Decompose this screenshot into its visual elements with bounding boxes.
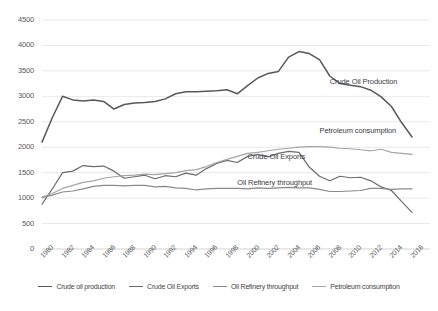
legend-label: Crude oil production — [56, 283, 115, 290]
legend-line-icon — [129, 286, 143, 287]
series-annotation: Crude Oil Exports — [248, 152, 306, 161]
legend-label: Crude Oil Exports — [147, 283, 199, 290]
series-annotation: Petroleum consumption — [320, 126, 397, 135]
y-tick-label: 1500 — [6, 168, 34, 177]
y-tick-label: 4000 — [6, 40, 34, 49]
legend-line-icon — [213, 286, 227, 287]
legend-label: Petroleum consumption — [330, 283, 399, 290]
series-annotation: Oil Refinery throughput — [237, 178, 312, 187]
y-tick-label: 3500 — [6, 66, 34, 75]
legend-item[interactable]: Crude Oil Exports — [129, 283, 199, 290]
series-line — [42, 151, 412, 212]
y-tick-label: 500 — [6, 219, 34, 228]
legend-item[interactable]: Crude oil production — [38, 283, 115, 290]
plot-area — [0, 0, 438, 311]
legend-line-icon — [312, 286, 326, 287]
series-line — [42, 185, 412, 197]
y-tick-label: 3000 — [6, 91, 34, 100]
y-tick-label: 1000 — [6, 193, 34, 202]
y-tick-label: 4500 — [6, 15, 34, 24]
legend-item[interactable]: Oil Refinery throughput — [213, 283, 298, 290]
legend-item[interactable]: Petroleum consumption — [312, 283, 399, 290]
series-annotation: Crude Oil Production — [330, 77, 398, 86]
y-tick-label: 0 — [6, 244, 34, 253]
y-tick-label: 2000 — [6, 142, 34, 151]
line-chart: 450040003500300025002000150010005000 198… — [0, 0, 438, 311]
legend-label: Oil Refinery throughput — [231, 283, 298, 290]
legend-line-icon — [38, 286, 52, 287]
y-tick-label: 2500 — [6, 117, 34, 126]
chart-legend: Crude oil productionCrude Oil ExportsOil… — [0, 283, 438, 290]
series-line — [42, 147, 412, 197]
